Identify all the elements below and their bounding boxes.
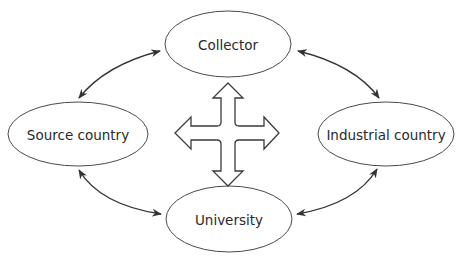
node-source-label: Source country (27, 127, 129, 143)
diagram-canvas: Collector Source country Industrial coun… (0, 0, 456, 260)
node-industrial-label: Industrial country (326, 127, 445, 143)
edge-collector-source (79, 51, 160, 98)
edge-industrial-university (297, 169, 377, 214)
edge-collector-industrial (298, 51, 379, 98)
four-way-arrow-icon (175, 83, 279, 186)
node-collector-label: Collector (198, 37, 258, 53)
node-university-label: University (195, 212, 263, 228)
edge-source-university (79, 170, 161, 214)
